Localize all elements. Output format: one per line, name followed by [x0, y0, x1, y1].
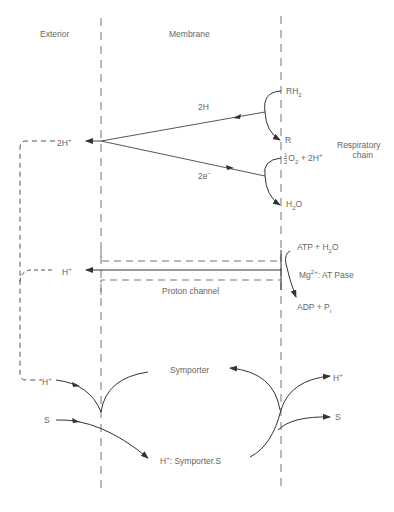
label-exterior: Exterior — [40, 30, 69, 39]
o2-text: O — [288, 153, 295, 163]
rh2-sub: 2 — [298, 92, 301, 98]
label-rh2: RH2 — [286, 87, 302, 98]
label-atp: ATP + H2O — [297, 243, 339, 254]
complex-rest: : Symporter.S — [170, 456, 222, 466]
frac-den: 2 — [284, 159, 287, 165]
label-h2o: H2O — [286, 200, 302, 211]
label-arrow-2e: 2e− — [198, 170, 211, 180]
mg-rest: : AT Pase — [318, 270, 354, 280]
h-in-sup: + — [48, 376, 52, 382]
adp-sub: i — [330, 308, 331, 314]
atp-rest: O — [332, 242, 339, 252]
h-out-sup: + — [339, 372, 343, 378]
mg-text: Mg — [299, 270, 311, 280]
h-out-arrow — [281, 376, 330, 410]
complex-return-arc — [250, 410, 281, 457]
label-membrane: Membrane — [169, 30, 210, 39]
h2o-o: O — [295, 199, 302, 209]
label-r: R — [285, 136, 291, 145]
adp-text: ADP + P — [297, 302, 330, 312]
s-in-head — [72, 418, 80, 423]
label-h-plus-channel: H+ — [62, 266, 72, 276]
label-arrow-2h: 2H — [198, 103, 209, 112]
respiratory-line2: chain — [345, 150, 373, 160]
proton-return-loop — [20, 141, 55, 380]
frac-num: 1 — [284, 152, 287, 159]
arrow-2e-line — [101, 141, 265, 176]
rh2-to-r-arc — [265, 91, 281, 140]
label-respiratory-chain: Respiratorychain — [337, 140, 380, 160]
label-symporter-complex: H+: Symporter.S — [160, 455, 221, 465]
respiratory-line1: Respiratory — [337, 140, 380, 150]
label-mg-atpase: Mg2+: AT Pase — [299, 269, 354, 279]
proton-channel-loop — [20, 270, 52, 282]
o2-to-h2o-arc — [265, 158, 281, 205]
half-fraction: 12 — [284, 152, 287, 165]
2h-plus-sup: + — [68, 137, 72, 143]
label-symporter: Symporter — [170, 366, 209, 375]
2h-plus-text: 2H — [57, 138, 68, 148]
symporter-right-arc — [230, 368, 280, 410]
atp-to-adp-arc — [286, 251, 297, 297]
arrow-2h-head — [233, 114, 241, 119]
o2-rest: + 2H — [298, 153, 319, 163]
2e-sup: − — [207, 170, 211, 176]
label-proton-channel: Proton channel — [162, 287, 219, 296]
atp-text: ATP + H — [297, 242, 329, 252]
proton-channel-top — [101, 250, 281, 261]
h-in-arrow — [56, 380, 101, 412]
label-adp: ADP + Pi — [297, 303, 331, 314]
label-2h-plus: 2H+ — [57, 137, 71, 147]
s-in-arrow — [56, 420, 148, 458]
h-plus-sup: + — [68, 266, 72, 272]
label-s-in: S — [44, 416, 50, 425]
o2-sup: + — [319, 152, 323, 158]
s-out-arrow — [278, 417, 330, 430]
mg-sup: 2+ — [311, 269, 318, 275]
label-o2: 12O2 + 2H+ — [284, 152, 322, 165]
label-h-in: H+ — [42, 376, 52, 386]
label-s-out: S — [335, 413, 341, 422]
label-h-out: H+ — [333, 372, 343, 382]
diagram-canvas — [0, 0, 394, 512]
symporter-left-arc — [101, 372, 148, 412]
rh2-text: RH — [286, 86, 298, 96]
